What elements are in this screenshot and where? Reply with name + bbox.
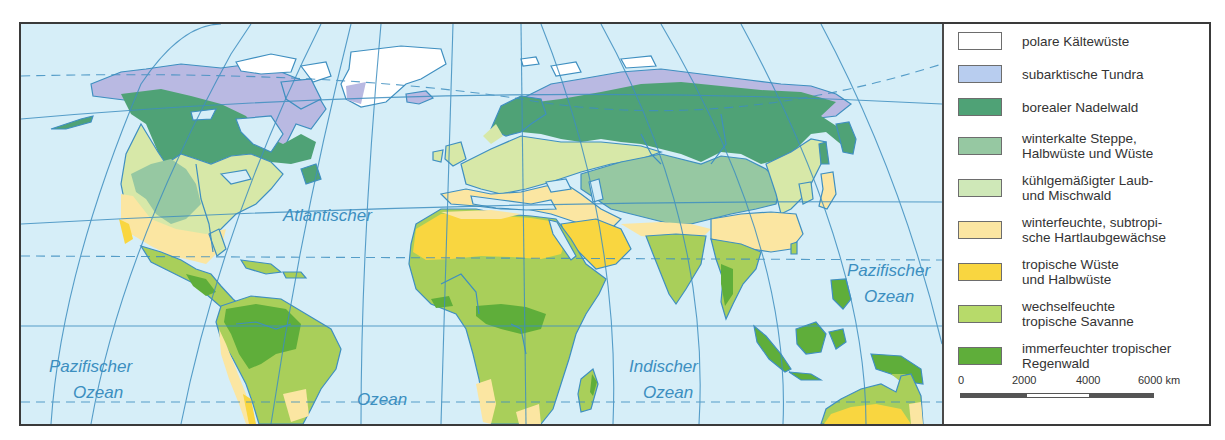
scale-bar: 0 2000 4000 6000 km bbox=[958, 374, 1188, 404]
legend-panel: polare Kältewüste subarktische Tundra bo… bbox=[942, 24, 1209, 424]
legend-label: polare Kältewüste bbox=[1022, 34, 1129, 49]
world-map-svg: Atlantischer Ozean Pazifischer Ozean Ind… bbox=[21, 24, 942, 424]
ocean-label-pacific-west-1: Pazifischer bbox=[49, 357, 133, 376]
ocean-label-atlantic-bottom: Ozean bbox=[357, 390, 407, 409]
scale-segment-3 bbox=[1090, 393, 1154, 398]
legend-swatch bbox=[958, 137, 1002, 155]
legend-swatch bbox=[958, 98, 1002, 116]
scale-tick-0: 0 bbox=[958, 374, 964, 386]
legend-item-tropical-savanna: wechselfeuchte tropische Savanne bbox=[958, 299, 1134, 329]
legend-label: tropische Wüste und Halbwüste bbox=[1022, 257, 1119, 287]
legend-swatch bbox=[958, 263, 1002, 281]
legend-swatch bbox=[958, 65, 1002, 83]
ocean-label-pacific-east-2: Ozean bbox=[864, 287, 914, 306]
ocean-label-indian-1: Indischer bbox=[629, 357, 699, 376]
legend-item-boreal-forest: borealer Nadelwald bbox=[958, 98, 1138, 116]
ocean-label-pacific-west-2: Ozean bbox=[73, 383, 123, 402]
scale-tick-6000: 6000 km bbox=[1138, 374, 1180, 386]
legend-swatch bbox=[958, 221, 1002, 239]
scale-segment-1 bbox=[960, 393, 1026, 398]
legend-label: subarktische Tundra bbox=[1022, 67, 1144, 82]
ocean-label-pacific-east-1: Pazifischer bbox=[847, 261, 931, 280]
legend-label: winterfeuchte, subtropi- sche Hartlaubge… bbox=[1022, 215, 1166, 245]
legend-label: kühlgemäßigter Laub- und Mischwald bbox=[1022, 173, 1153, 203]
scale-tick-2000: 2000 bbox=[1012, 374, 1036, 386]
legend-item-subarctic-tundra: subarktische Tundra bbox=[958, 65, 1144, 83]
map-frame: Atlantischer Ozean Pazifischer Ozean Ind… bbox=[19, 22, 1211, 426]
legend-item-mediterranean: winterfeuchte, subtropi- sche Hartlaubge… bbox=[958, 215, 1166, 245]
legend-swatch bbox=[958, 347, 1002, 365]
ocean-label-indian-2: Ozean bbox=[643, 383, 693, 402]
legend-label: immerfeuchter tropischer Regenwald bbox=[1022, 341, 1171, 371]
legend-swatch bbox=[958, 305, 1002, 323]
legend-swatch bbox=[958, 179, 1002, 197]
scale-tick-4000: 4000 bbox=[1076, 374, 1100, 386]
legend-item-polar-cold-desert: polare Kältewüste bbox=[958, 32, 1129, 50]
scale-segment-2 bbox=[1026, 393, 1090, 398]
legend-swatch bbox=[958, 32, 1002, 50]
vegetation-zones-map: Atlantischer Ozean Pazifischer Ozean Ind… bbox=[21, 24, 942, 424]
legend-item-tropical-rainforest: immerfeuchter tropischer Regenwald bbox=[958, 341, 1171, 371]
legend-label: wechselfeuchte tropische Savanne bbox=[1022, 299, 1134, 329]
ocean-label-atlantic-top: Atlantischer bbox=[282, 206, 373, 225]
legend-item-tropical-desert: tropische Wüste und Halbwüste bbox=[958, 257, 1119, 287]
legend-item-temperate-forest: kühlgemäßigter Laub- und Mischwald bbox=[958, 173, 1153, 203]
legend-label: winterkalte Steppe, Halbwüste und Wüste bbox=[1022, 131, 1153, 161]
legend-label: borealer Nadelwald bbox=[1022, 100, 1138, 115]
legend-item-winter-cold-steppe: winterkalte Steppe, Halbwüste und Wüste bbox=[958, 131, 1153, 161]
